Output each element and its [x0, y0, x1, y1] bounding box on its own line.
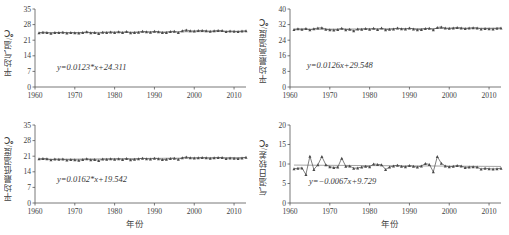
plot-area: 0714212835196019701980199020002010: [17, 4, 249, 104]
trend-equation-annotation: y=0.0126x+29.548: [307, 60, 373, 70]
svg-text:2000: 2000: [187, 207, 202, 216]
svg-text:1970: 1970: [67, 207, 82, 216]
svg-text:2000: 2000: [442, 91, 457, 100]
svg-text:2000: 2000: [442, 207, 457, 216]
y-axis-label: 平均气温/℃: [2, 6, 16, 98]
svg-text:1990: 1990: [147, 91, 162, 100]
svg-text:16: 16: [278, 51, 286, 60]
data-point-markers: [37, 156, 247, 162]
figure-panel-grid: 平均气温/℃ 071421283519601970198019902000201…: [0, 0, 509, 235]
svg-text:1980: 1980: [107, 91, 122, 100]
plot-area: 0816243240196019701980199020002010: [272, 4, 504, 104]
svg-text:20: 20: [278, 121, 286, 130]
svg-text:1990: 1990: [402, 207, 417, 216]
svg-text:1990: 1990: [147, 207, 162, 216]
svg-text:28: 28: [23, 136, 31, 145]
svg-text:10: 10: [278, 160, 286, 169]
svg-text:5: 5: [282, 179, 286, 188]
svg-text:1980: 1980: [107, 207, 122, 216]
svg-text:14: 14: [23, 167, 31, 176]
svg-text:40: 40: [278, 5, 286, 14]
y-axis-label: 平均最低温度/℃: [2, 122, 16, 214]
svg-text:1970: 1970: [322, 207, 337, 216]
svg-text:1970: 1970: [67, 91, 82, 100]
svg-text:32: 32: [278, 20, 286, 29]
svg-text:7: 7: [27, 183, 31, 192]
svg-text:1970: 1970: [322, 91, 337, 100]
chart-panel-mean-minimum-temperature: 平均最低温度/℃ 0714212835196019701980199020002…: [0, 116, 254, 233]
trend-equation-annotation: y=−0.0067x+9.729: [309, 176, 376, 186]
svg-text:1960: 1960: [27, 91, 42, 100]
plot-area: 05101520196019701980199020002010: [272, 120, 504, 220]
svg-text:28: 28: [23, 20, 31, 29]
svg-text:1960: 1960: [282, 207, 297, 216]
chart-svg: 0816243240196019701980199020002010: [272, 4, 504, 104]
svg-text:21: 21: [23, 152, 31, 161]
svg-text:1980: 1980: [362, 207, 377, 216]
chart-panel-diurnal-temperature-range: 气温日较差/℃ 05101520196019701980199020002010…: [255, 116, 509, 233]
x-axis-label: 年份: [8, 217, 262, 229]
svg-text:7: 7: [27, 67, 31, 76]
chart-svg: 0714212835196019701980199020002010: [17, 120, 249, 220]
y-axis-label: 平均最高温度/℃: [257, 4, 271, 96]
svg-text:35: 35: [23, 5, 31, 14]
x-axis-label: 年份: [263, 217, 509, 229]
svg-text:2010: 2010: [226, 207, 241, 216]
chart-svg: 05101520196019701980199020002010: [272, 120, 504, 220]
svg-text:2010: 2010: [481, 207, 496, 216]
svg-text:24: 24: [278, 36, 286, 45]
svg-text:1990: 1990: [402, 91, 417, 100]
trend-equation-annotation: y=0.0162*x+19.542: [57, 174, 127, 184]
svg-text:1960: 1960: [27, 207, 42, 216]
svg-text:1960: 1960: [282, 91, 297, 100]
plot-area: 0714212835196019701980199020002010: [17, 120, 249, 220]
svg-text:2010: 2010: [481, 91, 496, 100]
chart-svg: 0714212835196019701980199020002010: [17, 4, 249, 104]
y-axis-label: 气温日较差/℃: [257, 120, 271, 212]
svg-text:14: 14: [23, 51, 31, 60]
svg-text:2000: 2000: [187, 91, 202, 100]
svg-text:35: 35: [23, 121, 31, 130]
chart-panel-mean-temperature: 平均气温/℃ 071421283519601970198019902000201…: [0, 0, 254, 117]
svg-text:21: 21: [23, 36, 31, 45]
svg-text:8: 8: [282, 67, 286, 76]
svg-text:1980: 1980: [362, 91, 377, 100]
svg-text:15: 15: [278, 140, 286, 149]
svg-text:2010: 2010: [226, 91, 241, 100]
chart-panel-mean-maximum-temperature: 平均最高温度/℃ 0816243240196019701980199020002…: [255, 0, 509, 117]
trend-equation-annotation: y=0.0123*x+24.311: [57, 62, 126, 72]
